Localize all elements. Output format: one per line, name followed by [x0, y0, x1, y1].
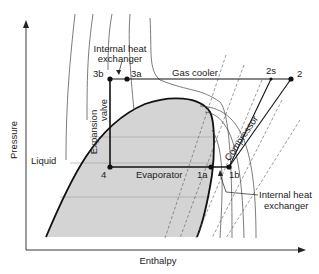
state-3a-label: 3a — [131, 68, 142, 79]
point-4 — [107, 164, 112, 169]
point-2 — [288, 76, 293, 81]
point-3b — [107, 76, 112, 81]
point-2s — [270, 78, 273, 81]
ihx-top-arrow-icon — [116, 70, 121, 75]
state-1b-label: 1b — [229, 169, 240, 180]
x-axis-arrow-icon — [298, 247, 306, 253]
point-3a — [124, 76, 129, 81]
point-1a — [208, 164, 213, 169]
compressor-label: Compressor — [222, 114, 260, 163]
y-axis-arrow-icon — [23, 20, 29, 28]
state-4-label: 4 — [101, 169, 106, 180]
evaporator-label: Evaporator — [136, 169, 182, 180]
ihx-bottom-arrow-icon — [218, 170, 223, 176]
ihx-top-label-2: exchanger — [98, 53, 142, 64]
gas-cooler-label: Gas cooler — [172, 67, 218, 78]
ihx-bottom-label-1: Internal heat — [259, 189, 312, 200]
state-3b-label: 3b — [93, 68, 104, 79]
ph-diagram: Internal heat exchanger 3b 3a Gas cooler… — [0, 0, 319, 274]
liquid-label: Liquid — [31, 155, 56, 166]
state-2s-label: 2s — [266, 65, 276, 76]
expansion-valve-label-2: valve — [98, 99, 109, 121]
state-2-label: 2 — [297, 68, 302, 79]
ihx-bottom-label-2: exchanger — [264, 200, 308, 211]
y-axis-label: Pressure — [8, 121, 19, 159]
x-axis-label: Enthalpy — [140, 255, 177, 266]
state-1a-label: 1a — [197, 169, 208, 180]
